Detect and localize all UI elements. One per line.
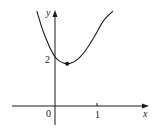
origin-label: 0 [46,108,51,119]
function-graph: y x 0 1 2 [0,0,155,130]
minimum-point [65,62,69,66]
y-axis [53,10,58,125]
y-axis-label: y [45,7,51,18]
x-axis [12,103,149,109]
y-axis-arrow-icon [53,10,58,17]
x-tick-label-1: 1 [95,109,100,120]
x-axis-label: x [142,108,148,119]
y-tick-label-2: 2 [45,54,50,65]
